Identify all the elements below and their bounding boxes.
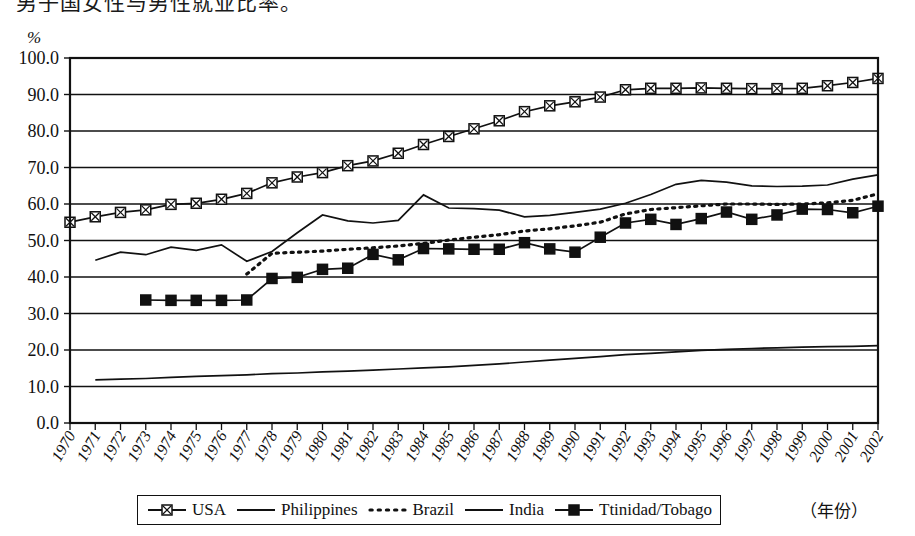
line-chart: 0.010.020.030.040.050.060.070.080.090.01…	[0, 0, 915, 500]
svg-text:2001: 2001	[831, 428, 862, 464]
svg-text:1989: 1989	[528, 428, 559, 464]
svg-text:2000: 2000	[805, 428, 836, 464]
legend-item-brazil: Brazil	[367, 500, 455, 520]
svg-text:100.0: 100.0	[19, 48, 60, 68]
svg-text:1976: 1976	[199, 428, 230, 464]
svg-text:1983: 1983	[376, 428, 407, 464]
svg-text:50.0: 50.0	[28, 231, 60, 251]
svg-text:1971: 1971	[73, 428, 104, 464]
svg-text:30.0: 30.0	[28, 304, 60, 324]
svg-text:1991: 1991	[578, 428, 609, 464]
data-series	[65, 73, 883, 379]
svg-text:1986: 1986	[452, 428, 483, 464]
svg-text:1973: 1973	[124, 428, 155, 464]
svg-text:1985: 1985	[427, 428, 458, 464]
legend-item-ttinidad-tobago: Ttinidad/Tobago	[553, 500, 712, 520]
svg-text:1997: 1997	[730, 427, 761, 464]
svg-text:1975: 1975	[174, 428, 205, 464]
svg-text:20.0: 20.0	[28, 340, 60, 360]
svg-text:10.0: 10.0	[28, 377, 60, 397]
svg-text:90.0: 90.0	[28, 85, 60, 105]
x-axis-label: （年份）	[800, 497, 868, 522]
svg-text:1996: 1996	[704, 428, 735, 464]
svg-text:1977: 1977	[225, 427, 256, 464]
svg-text:80.0: 80.0	[28, 121, 60, 141]
svg-text:1995: 1995	[679, 428, 710, 464]
svg-text:1998: 1998	[755, 428, 786, 464]
svg-text:40.0: 40.0	[28, 267, 60, 287]
legend-item-usa: USA	[146, 500, 226, 520]
svg-text:0.0: 0.0	[37, 413, 60, 433]
svg-text:1972: 1972	[98, 428, 129, 464]
legend-swatch-solid	[235, 503, 277, 517]
svg-text:1987: 1987	[477, 427, 508, 464]
legend-label: USA	[192, 500, 226, 520]
svg-text:1988: 1988	[502, 428, 533, 464]
svg-text:1979: 1979	[275, 428, 306, 464]
svg-text:1993: 1993	[629, 428, 660, 464]
svg-text:1970: 1970	[48, 428, 79, 464]
svg-text:1994: 1994	[654, 428, 685, 464]
svg-text:2002: 2002	[856, 428, 887, 464]
svg-text:1974: 1974	[149, 428, 180, 464]
svg-text:1999: 1999	[780, 428, 811, 464]
svg-text:1980: 1980	[300, 428, 331, 464]
svg-text:60.0: 60.0	[28, 194, 60, 214]
legend-swatch-dotted	[367, 503, 409, 517]
legend-swatch-square-filled	[553, 503, 595, 517]
svg-text:1981: 1981	[326, 428, 357, 464]
legend-swatch-square-crossed	[146, 503, 188, 517]
svg-text:70.0: 70.0	[28, 158, 60, 178]
chart-page: 男子国女性与男性就业比率。 % 0.010.020.030.040.050.06…	[0, 0, 915, 536]
grid-lines	[64, 58, 878, 423]
legend-label: Ttinidad/Tobago	[599, 500, 712, 520]
svg-text:1990: 1990	[553, 428, 584, 464]
svg-text:1984: 1984	[401, 428, 432, 464]
svg-text:1978: 1978	[250, 428, 281, 464]
chart-legend: USAPhilippinesBrazilIndiaTtinidad/Tobago	[137, 495, 721, 525]
x-axis-tick-labels: 1970197119721973197419751976197719781979…	[48, 427, 887, 464]
svg-text:1982: 1982	[351, 428, 382, 464]
legend-label: Brazil	[413, 500, 455, 520]
legend-item-philippines: Philippines	[235, 500, 358, 520]
legend-label: India	[509, 500, 544, 520]
legend-label: Philippines	[281, 500, 358, 520]
legend-item-india: India	[463, 500, 544, 520]
svg-text:1992: 1992	[603, 428, 634, 464]
legend-swatch-solid	[463, 503, 505, 517]
y-axis-tick-labels: 0.010.020.030.040.050.060.070.080.090.01…	[19, 48, 60, 433]
